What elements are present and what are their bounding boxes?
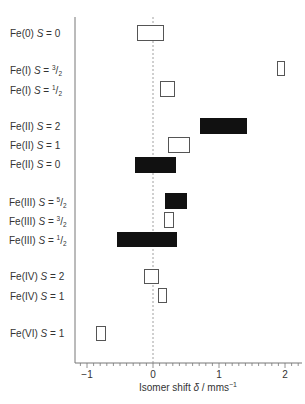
row-label: Fe(0) S = 0 [10, 28, 60, 39]
row-label: Fe(IV) S = 2 [10, 271, 64, 282]
row-label: Fe(I) S = 3/2 [10, 64, 62, 77]
open-range-bar [137, 25, 164, 41]
row-label: Fe(III) S = 3/2 [9, 215, 67, 228]
row-label: Fe(II) S = 1 [10, 140, 60, 151]
row-label: Fe(I) S = 1/2 [10, 84, 62, 97]
open-range-bar [96, 326, 106, 341]
open-range-bar [277, 61, 285, 76]
x-axis-label: Isomer shift δ / mms−1 [139, 381, 237, 393]
row-label: Fe(III) S = 5/2 [9, 196, 67, 209]
open-range-bar [160, 81, 175, 97]
filled-range-bar [165, 193, 187, 209]
filled-range-bar [117, 232, 177, 247]
row-label: Fe(VI) S = 1 [10, 328, 64, 339]
row-label: Fe(III) S = 1/2 [9, 234, 67, 247]
open-range-bar [168, 137, 190, 153]
x-tick-label: 2 [282, 369, 288, 380]
filled-range-bar [135, 157, 176, 173]
open-range-bar [144, 269, 159, 284]
x-tick-label: 0 [150, 369, 156, 380]
filled-range-bar [200, 118, 247, 134]
row-label: Fe(II) S = 0 [10, 159, 60, 170]
x-tick-label: −1 [81, 369, 92, 380]
open-range-bar [158, 288, 167, 303]
row-label: Fe(II) S = 2 [10, 121, 60, 132]
isomer-shift-chart: Fe(0) S = 0Fe(I) S = 3/2Fe(I) S = 1/2Fe(… [0, 0, 305, 404]
row-label: Fe(IV) S = 1 [10, 291, 64, 302]
x-tick-label: 1 [216, 369, 222, 380]
open-range-bar [164, 212, 174, 228]
